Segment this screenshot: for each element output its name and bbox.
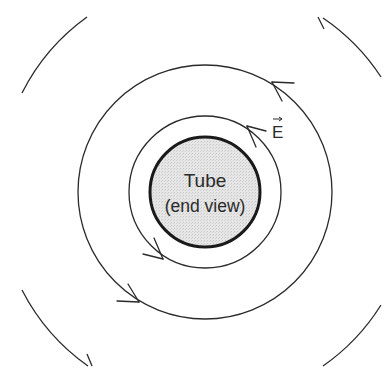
field-label-e: E [272, 117, 283, 142]
field-label-text: E [272, 123, 283, 142]
tube-circle [150, 137, 260, 247]
tube-label-line1: Tube [184, 170, 227, 191]
outer-arc-top-right [323, 18, 381, 77]
arrow-icon-inner-bottom-left [143, 238, 163, 259]
vector-arrow-icon [273, 117, 282, 121]
outer-arc-bottom-left [22, 290, 88, 366]
induced-electric-field-diagram: E Tube (end view) [0, 0, 392, 375]
outer-arc-bottom-right [323, 305, 381, 366]
tube-label-line2: (end view) [165, 196, 246, 216]
outer-arc-top-left [22, 17, 87, 93]
tube-end-view: Tube (end view) [150, 137, 260, 247]
outer-arc-tick-bottom-left [87, 354, 92, 366]
